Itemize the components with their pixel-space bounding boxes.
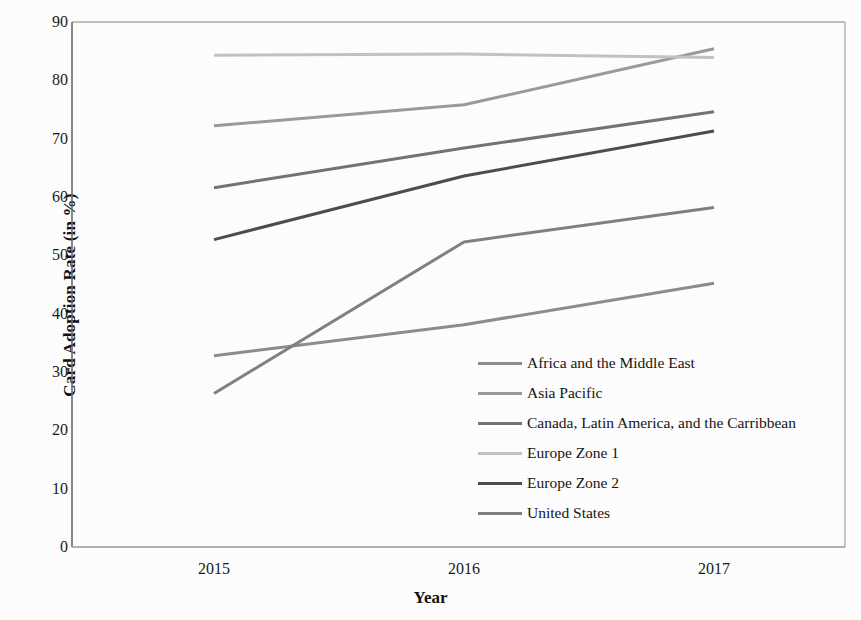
legend-line-swatch xyxy=(478,422,522,425)
legend-line-swatch xyxy=(478,482,522,485)
legend-item: Africa and the Middle East xyxy=(478,348,850,378)
legend-label: Asia Pacific xyxy=(527,385,602,401)
series-line xyxy=(214,49,714,126)
series-line xyxy=(214,54,714,58)
legend-line-swatch xyxy=(478,362,522,365)
series-lines xyxy=(214,49,714,394)
x-tick-label: 2016 xyxy=(419,560,509,578)
series-line xyxy=(214,283,714,355)
x-tick-label: 2017 xyxy=(669,560,759,578)
legend-item: Canada, Latin America, and the Carribbea… xyxy=(478,408,850,438)
legend-label: Europe Zone 2 xyxy=(527,475,619,491)
legend-item: Asia Pacific xyxy=(478,378,850,408)
legend-item: United States xyxy=(478,498,850,528)
legend-label: Canada, Latin America, and the Carribbea… xyxy=(527,415,796,431)
x-axis-title: Year xyxy=(0,588,861,608)
legend-label: Europe Zone 1 xyxy=(527,445,619,461)
legend-line-swatch xyxy=(478,512,522,515)
legend-line-swatch xyxy=(478,452,522,455)
line-chart: Card Adoption Rate (in %) 01020304050607… xyxy=(0,0,861,620)
legend-item: Europe Zone 2 xyxy=(478,468,850,498)
chart-legend: Africa and the Middle EastAsia PacificCa… xyxy=(478,348,850,528)
legend-label: United States xyxy=(527,505,610,521)
x-tick-label: 2015 xyxy=(169,560,259,578)
legend-line-swatch xyxy=(478,392,522,395)
legend-item: Europe Zone 1 xyxy=(478,438,850,468)
legend-label: Africa and the Middle East xyxy=(527,355,695,371)
